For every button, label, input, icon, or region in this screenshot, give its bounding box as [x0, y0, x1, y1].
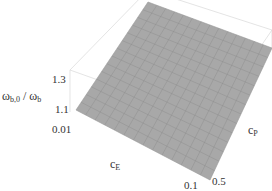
z-label-omega: ω — [2, 89, 10, 103]
x-tick-label: 0.1 — [184, 180, 198, 191]
z-label-sep: / ω — [20, 89, 37, 103]
z-label-sub1: b,0 — [10, 95, 20, 104]
surface-face — [76, 2, 272, 180]
x-axis-label: cE — [110, 158, 120, 172]
z-label-sub2: b — [37, 95, 41, 104]
z-tick-label: 1.1 — [55, 104, 69, 115]
y-tick-label: 0.5 — [212, 176, 226, 187]
x-label-sub: E — [115, 163, 120, 172]
y-axis-label: cP — [248, 124, 258, 138]
surface-mesh — [76, 2, 272, 180]
z-axis-label: ωb,0 / ωb — [2, 90, 41, 104]
y-label-sub: P — [253, 129, 257, 138]
x-tick-label: 0.01 — [52, 124, 71, 135]
z-tick-label: 1.3 — [52, 74, 66, 85]
